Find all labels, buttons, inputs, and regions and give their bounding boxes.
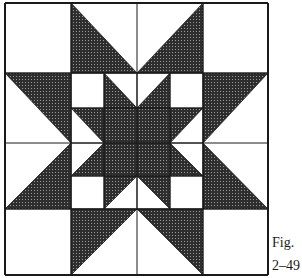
outer-right-top-point [203,73,268,143]
inner-right-top-point [170,108,203,143]
inner-bottom-right-point [137,176,170,209]
quilt-block-diagram [0,0,302,278]
inner-top-right-point [137,73,170,108]
inner-right-bottom-point [170,143,203,176]
inner-top-left-point [104,73,137,108]
figure-caption-label: Fig. [272,236,294,250]
outer-left-bottom-point [5,143,71,209]
figure-caption-number: 2–49 [272,259,300,273]
outer-top-right-point [137,3,203,73]
outer-top-left-point [71,3,137,73]
outer-bottom-right-point [137,209,203,275]
inner-left-bottom-point [71,143,104,176]
outer-left-top-point [5,73,71,143]
seam-lines [5,3,268,275]
inner-left-top-point [71,108,104,143]
inner-bottom-left-point [104,176,137,209]
outer-bottom-left-point [71,209,137,275]
outer-right-bottom-point [203,143,268,209]
